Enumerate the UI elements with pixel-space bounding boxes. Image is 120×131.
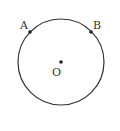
point-a-label: A bbox=[19, 19, 29, 32]
point-a-dot bbox=[28, 30, 32, 34]
center-o-label: O bbox=[52, 66, 61, 79]
point-b-label: B bbox=[93, 19, 101, 32]
center-o-dot bbox=[59, 60, 63, 64]
diagram-canvas: A B O bbox=[0, 0, 120, 131]
